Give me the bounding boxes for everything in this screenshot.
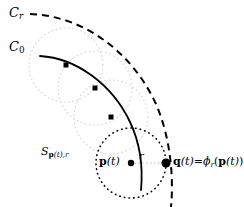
- label-point-q-inner-bold: p: [218, 155, 226, 168]
- point-q-marker: [161, 158, 170, 167]
- label-base-curve-base: C: [9, 39, 19, 54]
- label-base-curve: C0: [9, 40, 25, 55]
- label-point-q-arg: (t): [181, 155, 194, 168]
- label-offset-curve-base: C: [9, 5, 19, 20]
- label-sphere-base: S: [41, 145, 49, 158]
- base-curve-c0: [40, 56, 142, 190]
- label-point-q-bold: q: [173, 155, 181, 168]
- label-point-p-arg: (t): [107, 155, 120, 168]
- label-base-curve-sub: 0: [19, 45, 25, 55]
- sample-point-3-marker: [109, 115, 114, 120]
- label-point-q-inner-arg: (t): [226, 155, 239, 168]
- label-point-q-close-paren: ): [239, 155, 243, 168]
- label-radius: r: [139, 151, 144, 161]
- label-point-p: p(t): [99, 156, 120, 167]
- diagram-canvas: [0, 0, 244, 207]
- sample-point-1-marker: [64, 63, 69, 68]
- label-sphere: Sp(t),r: [41, 146, 69, 159]
- sample-point-2-marker: [93, 86, 98, 91]
- offset-curve-figure: Cr C0 Sp(t),r p(t) r q(t)=ϕr(p(t)): [0, 0, 244, 207]
- offset-curve-cr: [30, 14, 172, 207]
- label-point-q-equals: =: [194, 155, 203, 168]
- label-sphere-sub-rest: (t),r: [54, 150, 69, 159]
- label-offset-curve: Cr: [9, 6, 23, 21]
- label-point-q: q(t)=ϕr(p(t)): [173, 156, 243, 169]
- label-sphere-subscript: p(t),r: [49, 150, 69, 159]
- label-point-p-bold: p: [99, 155, 107, 168]
- point-p-marker: [128, 160, 134, 166]
- label-offset-curve-sub: r: [19, 11, 23, 21]
